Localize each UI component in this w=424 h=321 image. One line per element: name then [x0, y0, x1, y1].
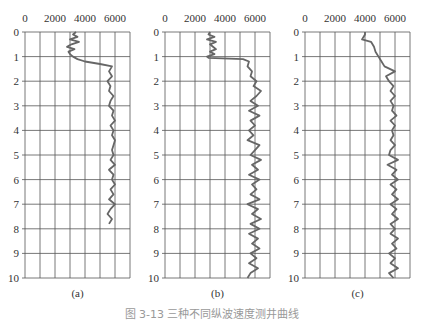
- x-tick-label: 0: [302, 12, 308, 24]
- y-tick-label: 6: [154, 174, 160, 186]
- y-tick-label: 5: [294, 149, 300, 161]
- y-tick-label: 9: [154, 247, 160, 259]
- y-tick-label: 2: [154, 75, 160, 87]
- x-tick-label: 2000: [44, 12, 67, 24]
- panel-c: 0200040006000012345678910(c): [288, 12, 410, 300]
- panel-label: (a): [71, 287, 84, 300]
- velocity-curve: [67, 32, 115, 224]
- x-tick-label: 4000: [354, 12, 377, 24]
- x-tick-label: 0: [162, 12, 168, 24]
- y-tick-label: 0: [294, 26, 300, 38]
- y-tick-label: 5: [154, 149, 160, 161]
- panel-label: (c): [351, 287, 364, 300]
- panel-label: (b): [211, 287, 224, 300]
- y-tick-label: 9: [294, 247, 300, 259]
- x-tick-label: 4000: [74, 12, 97, 24]
- panel-b: 0200040006000012345678910(b): [148, 12, 270, 300]
- y-tick-label: 7: [294, 198, 300, 210]
- y-tick-label: 6: [14, 174, 20, 186]
- y-tick-label: 1: [14, 51, 20, 63]
- x-tick-label: 6000: [244, 12, 267, 24]
- y-tick-label: 3: [14, 100, 20, 112]
- y-tick-label: 10: [148, 272, 160, 284]
- figure-caption: 图 3-13 三种不同纵波速度测井曲线: [0, 305, 424, 321]
- y-tick-label: 3: [294, 100, 300, 112]
- y-tick-label: 2: [14, 75, 20, 87]
- y-tick-label: 7: [154, 198, 160, 210]
- y-tick-label: 0: [14, 26, 20, 38]
- y-tick-label: 8: [294, 223, 300, 235]
- y-tick-label: 7: [14, 198, 20, 210]
- x-tick-label: 6000: [384, 12, 407, 24]
- x-tick-label: 2000: [324, 12, 347, 24]
- y-tick-label: 1: [154, 51, 160, 63]
- y-tick-label: 8: [154, 223, 160, 235]
- y-tick-label: 10: [288, 272, 300, 284]
- y-tick-label: 2: [294, 75, 300, 87]
- x-tick-label: 0: [22, 12, 28, 24]
- y-tick-label: 5: [14, 149, 20, 161]
- y-tick-label: 8: [14, 223, 20, 235]
- x-tick-label: 2000: [184, 12, 207, 24]
- x-tick-label: 6000: [104, 12, 127, 24]
- y-tick-label: 4: [294, 124, 300, 136]
- y-tick-label: 6: [294, 174, 300, 186]
- x-tick-label: 4000: [214, 12, 237, 24]
- y-tick-label: 10: [8, 272, 20, 284]
- y-tick-label: 4: [14, 124, 20, 136]
- y-tick-label: 3: [154, 100, 160, 112]
- y-tick-label: 9: [14, 247, 20, 259]
- y-tick-label: 1: [294, 51, 300, 63]
- panel-a: 0200040006000012345678910(a): [8, 12, 130, 300]
- y-tick-label: 4: [154, 124, 160, 136]
- y-tick-label: 0: [154, 26, 160, 38]
